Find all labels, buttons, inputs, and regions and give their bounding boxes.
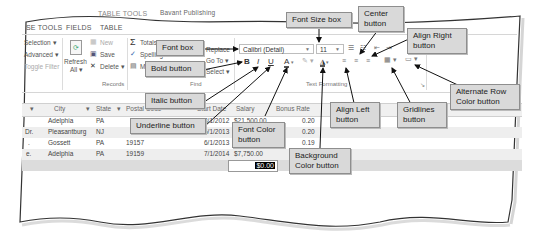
callout-gridlines-button: Gridlines button (397, 102, 447, 128)
callout-font-color-button: Font Color button (232, 122, 285, 148)
callout-center-button: Center button (358, 6, 404, 32)
callout-align-right-button: Align Right button (407, 28, 467, 54)
callout-font-box: Font box (156, 40, 204, 56)
torn-paper-screenshot: TABLE TOOLS Bavant Publishing SE TOOLS F… (0, 0, 542, 238)
callout-bold-button: Bold button (145, 61, 205, 77)
callout-alternate-row-color-button: Alternate Row Color button (450, 84, 520, 110)
callout-align-left-button: Align Left button (330, 102, 380, 128)
callout-font-size-box: Font Size box (286, 12, 352, 28)
callout-underline-button: Underline button (130, 118, 206, 134)
callout-background-color-button: Background Color button (289, 148, 351, 174)
callout-italic-button: Italic button (145, 93, 205, 109)
